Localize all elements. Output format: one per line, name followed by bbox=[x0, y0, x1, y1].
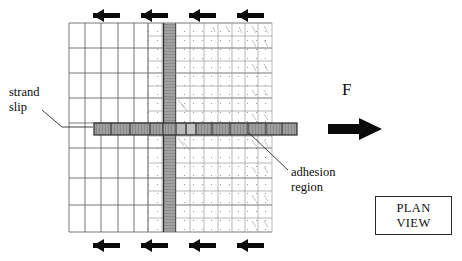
engineering-diagram-plan-view: strand slip adhesion region F PLAN VIEW bbox=[0, 0, 462, 261]
arrow-bottom-1 bbox=[93, 239, 120, 252]
arrow-bottom-4 bbox=[237, 239, 264, 252]
arrows-bottom-group bbox=[93, 239, 264, 252]
callout-adhesion-region: adhesion region bbox=[291, 165, 335, 196]
plan-view-line-1: PLAN bbox=[396, 201, 430, 216]
force-arrow bbox=[328, 118, 382, 140]
plan-view-line-2: VIEW bbox=[396, 216, 430, 231]
arrow-bottom-2 bbox=[141, 239, 168, 252]
arrow-top-3 bbox=[189, 9, 216, 22]
strand-horizontal-bar bbox=[94, 123, 297, 135]
arrows-top-group bbox=[93, 9, 264, 22]
arrow-bottom-3 bbox=[189, 239, 216, 252]
arrow-top-1 bbox=[93, 9, 120, 22]
arrow-top-2 bbox=[141, 9, 168, 22]
force-label: F bbox=[342, 80, 352, 101]
callout-strand-slip: strand slip bbox=[9, 85, 40, 116]
plan-view-box: PLAN VIEW bbox=[375, 196, 452, 235]
arrow-top-4 bbox=[237, 9, 264, 22]
